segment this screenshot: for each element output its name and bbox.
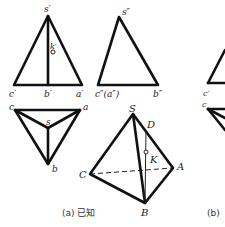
- label-A: A: [176, 161, 184, 172]
- side-view: s″ c″(a″) b″: [95, 7, 163, 99]
- label-s-front: s′: [44, 4, 51, 14]
- label-c-front: c′: [9, 89, 16, 99]
- label-s-top: s: [46, 117, 51, 127]
- hidden-edge-ca: [90, 168, 173, 174]
- projection-diagram: s′ k′ c′ b′ a′ s″ c″(a″) b″ c a s b S D …: [0, 0, 225, 227]
- label-b-side: b″: [153, 89, 163, 99]
- label-S: S: [129, 103, 136, 114]
- caption-b: (b): [207, 208, 220, 218]
- front-view: s′ k′ c′ b′ a′: [9, 4, 83, 99]
- side-view-triangle: [98, 17, 158, 85]
- tetrahedron-outline: [90, 114, 173, 203]
- label-b-top: b: [52, 164, 58, 174]
- label-D: D: [146, 119, 155, 130]
- label-B: B: [140, 207, 148, 218]
- label-c-front-b: c′: [203, 89, 209, 98]
- point-k: [144, 150, 148, 154]
- label-c-top-b: c: [202, 100, 207, 109]
- label-a-front: a′: [76, 89, 83, 99]
- label-C: C: [79, 169, 87, 180]
- label-k-front: k′: [50, 42, 57, 51]
- top-view: c a s b: [9, 102, 88, 174]
- caption-a: (a) 已知: [62, 207, 95, 218]
- label-K: K: [149, 154, 158, 165]
- label-ca-side: c″(a″): [95, 89, 120, 99]
- label-s-side: s″: [122, 7, 131, 17]
- line-db: [145, 130, 146, 203]
- partial-figure-b: c′ c: [202, 50, 225, 130]
- pictorial-view: S D K A C B: [79, 103, 184, 218]
- label-c-top: c: [9, 102, 14, 112]
- partial-front-edge: [208, 50, 225, 83]
- label-a-top: a: [83, 102, 88, 112]
- label-b-front: b′: [44, 89, 52, 99]
